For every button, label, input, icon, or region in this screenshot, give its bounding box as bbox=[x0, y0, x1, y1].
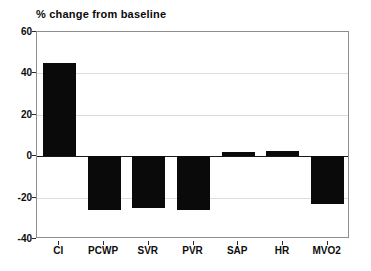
y-tick-label: -20 bbox=[18, 191, 32, 202]
chart-title: % change from baseline bbox=[36, 8, 166, 20]
x-tick-label-ci: CI bbox=[53, 245, 63, 256]
x-tick-label-hr: HR bbox=[275, 245, 289, 256]
y-axis: 6040200-20-40 bbox=[0, 31, 32, 238]
plot-area bbox=[36, 31, 349, 238]
bar-mvo2 bbox=[311, 156, 344, 204]
y-tick-mark bbox=[32, 197, 36, 198]
bar-pvr bbox=[177, 156, 210, 210]
x-tick-label-pvr: PVR bbox=[182, 245, 203, 256]
y-tick-label: 40 bbox=[21, 67, 32, 78]
x-tick-label-mvo2: MVO2 bbox=[312, 245, 340, 256]
bar-ci bbox=[43, 63, 76, 156]
y-tick-mark bbox=[32, 31, 36, 32]
bar-pcwp bbox=[88, 156, 121, 210]
x-tick-label-sap: SAP bbox=[227, 245, 248, 256]
x-tick-label-svr: SVR bbox=[138, 245, 159, 256]
y-tick-mark bbox=[32, 72, 36, 73]
bar-sap bbox=[222, 152, 255, 156]
y-tick-mark bbox=[32, 238, 36, 239]
y-tick-mark bbox=[32, 114, 36, 115]
x-tick-label-pcwp: PCWP bbox=[88, 245, 118, 256]
y-tick-label: 60 bbox=[21, 26, 32, 37]
chart-figure: % change from baseline 6040200-20-40 CIP… bbox=[0, 0, 371, 271]
y-tick-mark bbox=[32, 155, 36, 156]
y-tick-label: 20 bbox=[21, 108, 32, 119]
bar-series bbox=[37, 32, 348, 237]
bar-hr bbox=[266, 151, 299, 156]
y-tick-label: -40 bbox=[18, 233, 32, 244]
x-axis: CIPCWPSVRPVRSAPHRMVO2 bbox=[36, 241, 349, 261]
bar-svr bbox=[132, 156, 165, 208]
